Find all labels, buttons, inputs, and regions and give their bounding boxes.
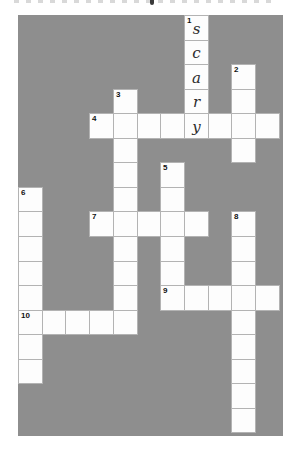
cell-r13-c0[interactable] xyxy=(18,334,43,360)
cell-r9-c9[interactable] xyxy=(231,236,256,262)
cell-r8-c4[interactable] xyxy=(113,211,138,237)
cell-r4-c4[interactable] xyxy=(113,113,138,139)
cell-r3-c7[interactable]: r xyxy=(184,89,209,114)
cell-r7-c0[interactable]: 6 xyxy=(18,187,43,212)
cell-number: 6 xyxy=(21,188,25,197)
cell-r4-c3[interactable]: 4 xyxy=(89,113,114,139)
cell-letter: y xyxy=(192,118,200,135)
cell-number: 8 xyxy=(234,212,238,221)
cell-r8-c9[interactable]: 8 xyxy=(231,211,256,237)
cell-r12-c9[interactable] xyxy=(231,310,256,335)
cell-number: 1 xyxy=(187,16,191,25)
cell-r11-c9[interactable] xyxy=(231,285,256,311)
cell-r6-c4[interactable] xyxy=(113,162,138,188)
cell-r8-c0[interactable] xyxy=(18,211,43,237)
cell-r8-c7[interactable] xyxy=(184,211,209,237)
cell-r4-c5[interactable] xyxy=(137,113,161,139)
cell-number: 4 xyxy=(92,114,96,123)
cell-number: 7 xyxy=(92,212,96,221)
cell-r9-c6[interactable] xyxy=(160,236,185,262)
cell-r14-c9[interactable] xyxy=(231,359,256,384)
cell-r7-c6[interactable] xyxy=(160,187,185,212)
cell-r16-c9[interactable] xyxy=(231,408,256,433)
cell-r12-c2[interactable] xyxy=(65,310,90,335)
cell-r2-c9[interactable]: 2 xyxy=(231,64,256,90)
cell-r1-c7[interactable]: c xyxy=(184,40,209,65)
cell-r12-c0[interactable]: 10 xyxy=(18,310,43,335)
cell-r5-c4[interactable] xyxy=(113,138,138,163)
cell-r14-c0[interactable] xyxy=(18,359,43,384)
cell-r12-c1[interactable] xyxy=(42,310,66,335)
crossword-board: 1sca23r4y5678910 xyxy=(18,15,283,436)
cell-r10-c4[interactable] xyxy=(113,261,138,286)
cell-r9-c4[interactable] xyxy=(113,236,138,262)
cell-r11-c0[interactable] xyxy=(18,285,43,311)
cell-letter: s xyxy=(193,20,201,37)
cell-r0-c7[interactable]: 1s xyxy=(184,15,209,41)
cell-r10-c0[interactable] xyxy=(18,261,43,286)
cell-r5-c9[interactable] xyxy=(231,138,256,163)
cell-r4-c7[interactable]: y xyxy=(184,113,209,139)
cell-r11-c6[interactable]: 9 xyxy=(160,285,185,311)
cell-r13-c9[interactable] xyxy=(231,334,256,360)
cell-letter: a xyxy=(192,69,201,86)
worksheet-page: 1sca23r4y5678910 xyxy=(0,0,297,455)
cell-r8-c6[interactable] xyxy=(160,211,185,237)
cell-letter: c xyxy=(192,44,200,61)
cell-r11-c8[interactable] xyxy=(208,285,232,311)
cell-r11-c10[interactable] xyxy=(255,285,280,311)
cell-r7-c4[interactable] xyxy=(113,187,138,212)
cell-r12-c3[interactable] xyxy=(89,310,114,335)
cell-r11-c4[interactable] xyxy=(113,285,138,311)
cell-r3-c4[interactable]: 3 xyxy=(113,89,138,114)
cell-r11-c7[interactable] xyxy=(184,285,209,311)
clipped-letter-descender xyxy=(150,0,154,5)
cell-letter: r xyxy=(193,93,200,110)
cell-r4-c8[interactable] xyxy=(208,113,232,139)
cell-number: 2 xyxy=(234,65,238,74)
cell-r15-c9[interactable] xyxy=(231,383,256,409)
cell-r2-c7[interactable]: a xyxy=(184,64,209,90)
cell-r9-c0[interactable] xyxy=(18,236,43,262)
cell-r12-c4[interactable] xyxy=(113,310,138,335)
cell-r3-c9[interactable] xyxy=(231,89,256,114)
cell-r8-c5[interactable] xyxy=(137,211,161,237)
clipped-text-strip xyxy=(14,0,276,3)
cell-r4-c10[interactable] xyxy=(255,113,280,139)
cell-number: 3 xyxy=(116,90,120,99)
cell-r10-c9[interactable] xyxy=(231,261,256,286)
cell-number: 10 xyxy=(21,311,30,320)
cell-r6-c6[interactable]: 5 xyxy=(160,162,185,188)
cell-r4-c6[interactable] xyxy=(160,113,185,139)
cell-r10-c6[interactable] xyxy=(160,261,185,286)
cell-r4-c9[interactable] xyxy=(231,113,256,139)
cell-r8-c3[interactable]: 7 xyxy=(89,211,114,237)
cell-number: 5 xyxy=(163,163,167,172)
cell-number: 9 xyxy=(163,286,167,295)
